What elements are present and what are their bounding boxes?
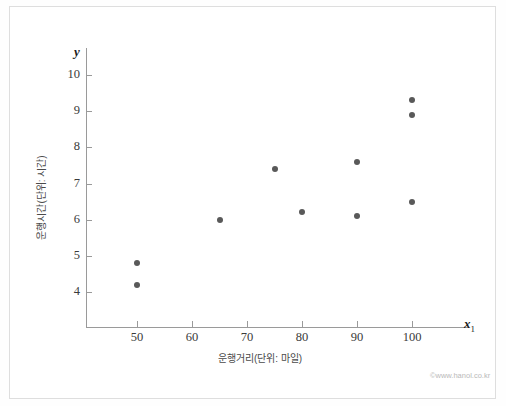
y-tick-label: 7 [52, 176, 80, 191]
x-tick-mark [192, 321, 193, 327]
data-point [409, 97, 415, 103]
y-tick-label: 8 [52, 139, 80, 154]
y-tick-mark [86, 256, 92, 257]
figure-container: y x1 운행시간(단위: 시간) 운행거리(단위: 마일) 45678910 … [0, 0, 506, 406]
y-tick-label: 9 [52, 103, 80, 118]
data-point [272, 166, 278, 172]
x-tick-mark [302, 321, 303, 327]
data-point [134, 282, 140, 288]
x-tick-label: 100 [392, 330, 432, 345]
y-tick-mark [86, 292, 92, 293]
data-point [354, 159, 360, 165]
data-point [409, 199, 415, 205]
x-tick-label: 50 [117, 330, 157, 345]
y-tick-mark [86, 75, 92, 76]
y-axis-label: 운행시간(단위: 시간) [33, 118, 48, 278]
x-axis-label: 운행거리(단위: 마일) [180, 350, 340, 365]
data-point [299, 209, 305, 215]
y-tick-mark [86, 111, 92, 112]
x-axis-line [86, 327, 468, 328]
x-tick-mark [412, 321, 413, 327]
data-point [354, 213, 360, 219]
x-axis-symbol-subscript: 1 [471, 324, 476, 334]
y-tick-label: 5 [52, 248, 80, 263]
x-tick-mark [247, 321, 248, 327]
data-point [409, 112, 415, 118]
x-tick-label: 80 [282, 330, 322, 345]
x-tick-mark [137, 321, 138, 327]
watermark: ©www.hanol.co.kr [430, 371, 490, 380]
y-tick-label: 4 [52, 284, 80, 299]
x-tick-label: 60 [172, 330, 212, 345]
x-tick-label: 70 [227, 330, 267, 345]
x-tick-mark [357, 321, 358, 327]
x-axis-symbol: x1 [464, 316, 475, 334]
y-tick-label: 10 [52, 67, 80, 82]
x-tick-label: 90 [337, 330, 377, 345]
y-axis-line [86, 48, 87, 328]
y-tick-mark [86, 147, 92, 148]
y-tick-mark [86, 220, 92, 221]
scatter-plot: y x1 운행시간(단위: 시간) 운행거리(단위: 마일) 45678910 … [0, 0, 506, 406]
data-point [134, 260, 140, 266]
data-point [217, 217, 223, 223]
y-tick-label: 6 [52, 212, 80, 227]
y-tick-mark [86, 184, 92, 185]
y-axis-symbol: y [74, 44, 80, 60]
